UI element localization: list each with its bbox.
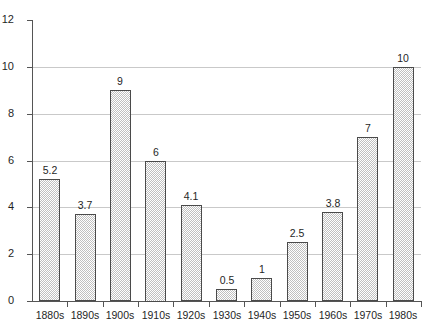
bar-value-label: 1 <box>242 264 282 275</box>
bar-value-label: 3.8 <box>313 198 353 209</box>
bar-value-label: 10 <box>383 53 423 64</box>
y-axis-tick-label: 12 <box>2 14 14 25</box>
bar <box>110 90 131 301</box>
y-axis-line <box>32 20 33 302</box>
x-axis-tick-mark <box>103 302 104 307</box>
bar-value-label: 6 <box>136 147 176 158</box>
x-axis-tick-mark <box>244 302 245 307</box>
y-axis-tick-mark <box>27 161 32 162</box>
bar <box>216 289 237 301</box>
x-axis-tick-mark <box>315 302 316 307</box>
y-axis-tick-mark <box>27 67 32 68</box>
bar <box>393 67 414 301</box>
y-axis-tick-label: 4 <box>8 201 14 212</box>
y-axis-tick-mark <box>27 207 32 208</box>
y-axis-tick-mark <box>27 254 32 255</box>
bar-value-label: 9 <box>100 76 140 87</box>
bar <box>145 161 166 302</box>
x-axis-tick-mark <box>386 302 387 307</box>
x-axis-tick-mark <box>280 302 281 307</box>
x-axis-line <box>32 301 422 302</box>
x-axis-tick-mark <box>138 302 139 307</box>
y-axis-tick-label: 0 <box>8 295 14 306</box>
x-axis-category-label: 1980s <box>379 309 427 321</box>
x-axis-tick-mark <box>67 302 68 307</box>
bar-value-label: 4.1 <box>171 191 211 202</box>
y-axis-tick-label: 2 <box>8 248 14 259</box>
bar <box>357 137 378 301</box>
bar-value-label: 3.7 <box>65 200 105 211</box>
x-axis-tick-mark <box>209 302 210 307</box>
bar <box>322 212 343 301</box>
bar-value-label: 7 <box>348 123 388 134</box>
x-axis-tick-mark <box>350 302 351 307</box>
gridline <box>32 114 421 115</box>
bar <box>39 179 60 301</box>
bar <box>181 205 202 301</box>
bar-value-label: 5.2 <box>30 165 70 176</box>
bar <box>75 214 96 301</box>
y-axis-tick-mark <box>27 20 32 21</box>
y-axis-tick-label: 8 <box>8 108 14 119</box>
gridline <box>32 67 421 68</box>
x-axis-tick-mark <box>421 302 422 307</box>
bar-value-label: 0.5 <box>207 275 247 286</box>
bar <box>287 242 308 301</box>
x-axis-tick-mark <box>173 302 174 307</box>
y-axis-tick-mark <box>27 301 32 302</box>
y-axis-tick-label: 10 <box>2 61 14 72</box>
bar-value-label: 2.5 <box>277 228 317 239</box>
bar <box>251 278 272 301</box>
y-axis-tick-label: 6 <box>8 155 14 166</box>
bar-chart: 0246810125.21880s3.71890s91900s61910s4.1… <box>0 0 433 333</box>
y-axis-tick-mark <box>27 114 32 115</box>
